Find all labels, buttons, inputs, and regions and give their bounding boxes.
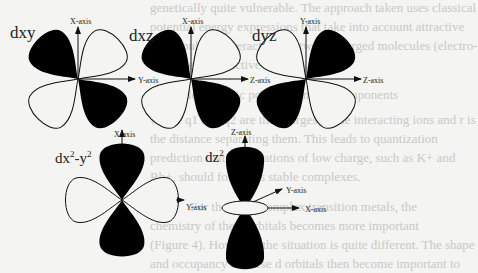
orbital-dxy — [22, 23, 135, 135]
axis-label: Y-axis — [286, 186, 306, 195]
axis-label: Y-axis — [138, 76, 158, 85]
axis-label: Y-axis — [300, 17, 320, 26]
orbital-label-dyz: dyz — [252, 26, 277, 45]
torus-ring — [222, 201, 268, 215]
orbital-label-dxy: dxy — [10, 23, 36, 42]
axis-label: X-axis — [70, 17, 91, 26]
orbital-dz2 — [222, 136, 299, 269]
diagonal-axis-arrow — [253, 189, 282, 202]
orbital-label-dxz: dxz — [129, 26, 154, 45]
orbital-label-dz2: dz2 — [205, 148, 224, 165]
orbital-label-dx2-y2: dx2-y2 — [55, 149, 92, 166]
axis-label: X-axis — [114, 130, 135, 139]
axis-label: Z-axis — [363, 76, 383, 85]
axis-label: Z-axis — [250, 76, 270, 85]
axis-label: Z-axis — [231, 128, 251, 137]
orbital-dx2-y2 — [66, 130, 185, 257]
axis-label: X-axis — [305, 205, 326, 214]
axis-label: Y-axis — [186, 203, 206, 212]
lobe-filled — [226, 208, 264, 269]
axis-label: X-axis — [182, 17, 203, 26]
lobe-filled — [226, 147, 264, 208]
